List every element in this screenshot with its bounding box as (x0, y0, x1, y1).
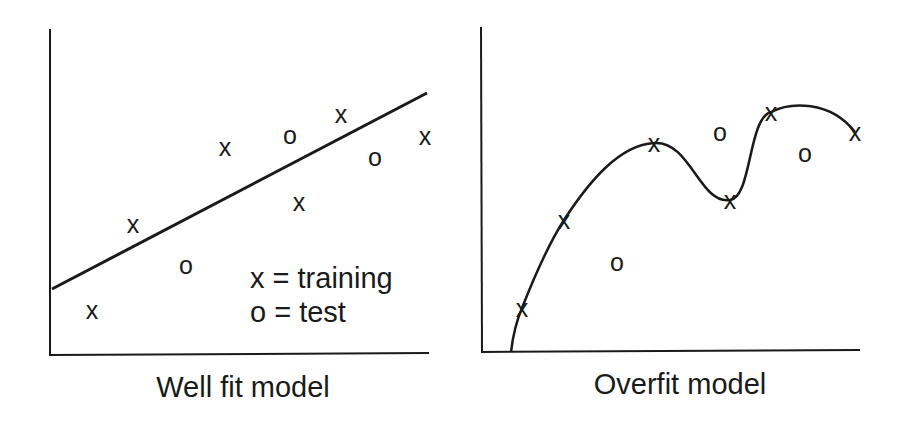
test-point-o-marker: o (283, 121, 297, 149)
linear-fit-line (52, 93, 427, 289)
training-point-x-marker: x (127, 210, 140, 238)
training-point-x-marker: x (648, 129, 661, 157)
training-point-x-marker: x (335, 100, 348, 128)
test-point-o-marker: o (713, 118, 727, 146)
well-fit-panel: xxxxxxooo x = training o = test Well fit… (49, 29, 432, 403)
test-point-o-marker: o (610, 248, 624, 276)
training-point-x-marker: x (765, 98, 778, 126)
legend-training: x = training (250, 262, 393, 294)
legend-test: o = test (250, 296, 346, 328)
training-point-x-marker: x (86, 296, 99, 324)
training-point-x-marker: x (516, 294, 529, 322)
training-point-x-marker: x (849, 118, 862, 146)
training-point-x-marker: x (724, 186, 737, 214)
training-point-x-marker: x (219, 133, 232, 161)
test-point-o-marker: o (368, 143, 382, 171)
test-point-o-marker: o (179, 251, 193, 279)
right-data-points: xxxxxxooo (516, 98, 862, 322)
training-point-x-marker: x (558, 206, 571, 234)
well-fit-title: Well fit model (156, 371, 330, 403)
training-point-x-marker: x (293, 188, 306, 216)
training-point-x-marker: x (419, 122, 432, 150)
left-x-axis (49, 353, 429, 355)
right-y-axis (481, 27, 482, 353)
test-point-o-marker: o (798, 139, 812, 167)
overfit-title: Overfit model (594, 368, 766, 400)
overfit-panel: xxxxxxooo Overfit model (481, 27, 862, 400)
right-x-axis (481, 350, 860, 352)
figure: xxxxxxooo x = training o = test Well fit… (0, 0, 903, 425)
